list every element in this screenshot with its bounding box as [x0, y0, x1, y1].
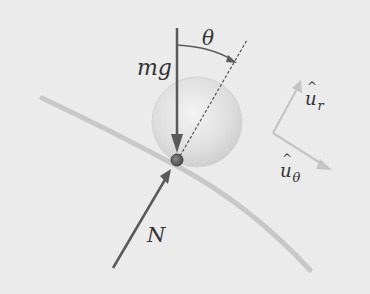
free-body-diagram: mg θ N ur uθ — [0, 0, 370, 294]
unit-vector-theta-label: uθ — [280, 162, 300, 180]
unit-vector-r-label: ur — [305, 90, 324, 108]
unit-theta-sub: θ — [293, 170, 301, 185]
angle-label: θ — [202, 28, 214, 48]
unit-r-sub: r — [318, 98, 324, 113]
unit-theta-base: u — [280, 162, 292, 180]
sphere — [152, 77, 242, 167]
unit-r-base: u — [305, 90, 317, 108]
unit-vector-r — [273, 87, 298, 133]
gravity-label: mg — [137, 57, 172, 79]
bead — [171, 154, 183, 166]
diagram-canvas — [0, 0, 370, 294]
normal-force-arrowhead — [160, 169, 171, 184]
normal-force-label: N — [147, 225, 165, 246]
